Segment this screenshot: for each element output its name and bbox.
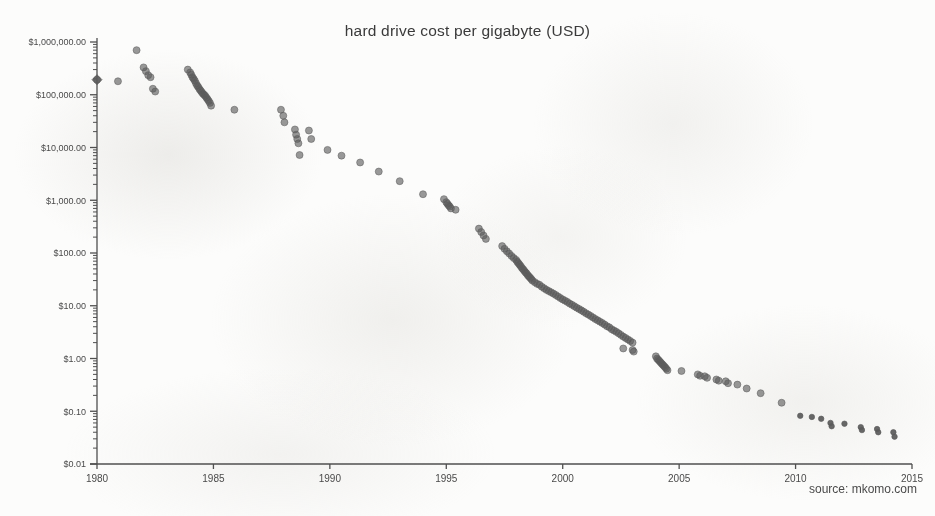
data-point <box>715 377 722 384</box>
svg-text:$1,000.00: $1,000.00 <box>46 196 86 206</box>
svg-text:$1,000,000.00: $1,000,000.00 <box>28 37 86 47</box>
data-point <box>152 88 159 95</box>
data-point <box>396 178 403 185</box>
data-point <box>734 381 741 388</box>
plot-canvas: $1,000,000.00$100,000.00$10,000.00$1,000… <box>0 0 935 516</box>
svg-text:2000: 2000 <box>552 473 575 484</box>
svg-text:$0.10: $0.10 <box>63 407 86 417</box>
data-point <box>114 78 121 85</box>
data-point <box>208 102 215 109</box>
data-point <box>296 152 303 159</box>
data-point <box>280 112 287 119</box>
data-point <box>482 235 489 242</box>
data-point <box>725 380 732 387</box>
svg-text:2005: 2005 <box>668 473 691 484</box>
svg-text:$10,000.00: $10,000.00 <box>41 143 86 153</box>
data-point <box>892 434 897 439</box>
data-point <box>231 106 238 113</box>
data-point <box>620 345 627 352</box>
data-point <box>305 127 312 134</box>
data-point <box>842 421 847 426</box>
data-point <box>859 427 864 432</box>
y-axis: $1,000,000.00$100,000.00$10,000.00$1,000… <box>28 37 97 469</box>
data-points <box>92 47 897 440</box>
data-point <box>295 140 302 147</box>
data-point <box>630 348 637 355</box>
x-axis: 19801985199019952000200520102015 <box>86 464 924 484</box>
data-point <box>743 385 750 392</box>
svg-text:$100,000.00: $100,000.00 <box>36 90 86 100</box>
data-point <box>338 152 345 159</box>
data-point <box>420 191 427 198</box>
data-point <box>452 206 459 213</box>
svg-text:$100.00: $100.00 <box>53 248 86 258</box>
data-point <box>147 74 154 81</box>
data-point <box>357 159 364 166</box>
source-attribution: source: mkomo.com <box>809 482 917 496</box>
data-point <box>133 47 140 54</box>
data-point <box>829 424 834 429</box>
data-point <box>757 390 764 397</box>
data-point <box>798 413 803 418</box>
data-point <box>375 168 382 175</box>
data-point-first <box>92 75 102 85</box>
data-point <box>778 399 785 406</box>
data-point <box>281 119 288 126</box>
svg-text:$1.00: $1.00 <box>63 354 86 364</box>
data-point <box>876 430 881 435</box>
svg-text:$0.01: $0.01 <box>63 459 86 469</box>
data-point <box>629 339 636 346</box>
data-point <box>678 367 685 374</box>
scatter-plot: $1,000,000.00$100,000.00$10,000.00$1,000… <box>0 0 935 516</box>
data-point <box>704 374 711 381</box>
data-point <box>664 367 671 374</box>
svg-text:1980: 1980 <box>86 473 109 484</box>
svg-text:1985: 1985 <box>202 473 225 484</box>
data-point <box>818 416 823 421</box>
svg-text:2010: 2010 <box>784 473 807 484</box>
svg-text:1990: 1990 <box>319 473 342 484</box>
svg-text:$10.00: $10.00 <box>58 301 86 311</box>
svg-text:1995: 1995 <box>435 473 458 484</box>
data-point <box>324 146 331 153</box>
data-point <box>809 414 814 419</box>
data-point <box>308 135 315 142</box>
